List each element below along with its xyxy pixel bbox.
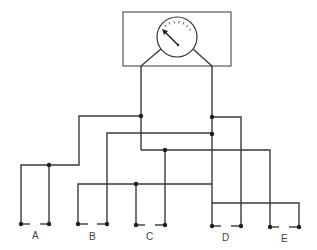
terminal-label-d: D bbox=[222, 232, 229, 243]
terminal-label-a: A bbox=[32, 230, 39, 241]
terminal-label-c: C bbox=[146, 231, 153, 242]
terminal-label-b: B bbox=[89, 231, 96, 242]
gauge-icon bbox=[157, 17, 197, 57]
terminal-label-e: E bbox=[281, 233, 288, 244]
wiring-diagram bbox=[0, 0, 317, 250]
wires bbox=[21, 49, 299, 227]
